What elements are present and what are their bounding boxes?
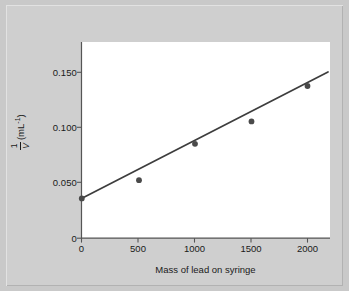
- y-axis-units-close: ): [15, 114, 26, 117]
- fraction-numerator: 1: [10, 143, 19, 150]
- y-tick-label: 0.050: [37, 177, 77, 188]
- x-tick-label: 1500: [231, 243, 271, 254]
- x-axis-title: Mass of lead on syringe: [81, 264, 330, 275]
- y-axis-units-open: (mL: [15, 124, 26, 140]
- data-points: [79, 83, 311, 201]
- data-point: [249, 119, 255, 125]
- x-tick-label: 0: [62, 243, 102, 254]
- y-axis-units-exponent: -1: [14, 117, 21, 123]
- fraction-denominator: V: [22, 142, 31, 150]
- x-tick-label: 500: [118, 243, 158, 254]
- y-axis-title-fraction: 1 V: [10, 142, 30, 150]
- figure: 0.150 0.100 0.050 0 0 500 1000 1500 2000…: [0, 0, 349, 291]
- x-axis-ticks: [82, 238, 308, 242]
- x-tick-label: 2000: [288, 243, 328, 254]
- y-axis-ticks: [77, 72, 82, 238]
- trendline: [82, 72, 329, 199]
- y-axis-title: 1 V (mL-1): [10, 82, 30, 182]
- data-point: [79, 196, 85, 202]
- data-point: [305, 83, 311, 89]
- x-tick-label: 1000: [175, 243, 215, 254]
- y-tick-label: 0.150: [37, 67, 77, 78]
- data-point: [136, 177, 142, 183]
- y-tick-label: 0.100: [37, 122, 77, 133]
- data-point: [192, 141, 198, 147]
- y-axis-units: (mL-1): [14, 114, 26, 140]
- x-axis-tick-labels: 0 500 1000 1500 2000: [0, 243, 349, 257]
